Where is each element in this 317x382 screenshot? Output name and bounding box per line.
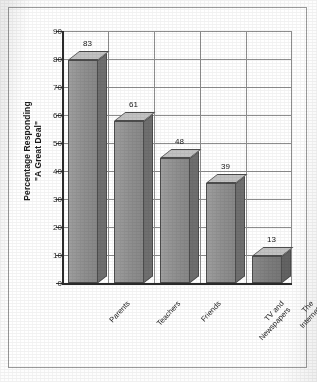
bar-friends [160, 158, 190, 283]
bar-front-face [68, 60, 98, 283]
y-axis-line [62, 31, 64, 283]
y-tick-label-40: 40 [36, 167, 62, 176]
value-label-parents: 83 [83, 39, 92, 48]
gridline-vertical-4 [246, 31, 247, 283]
bar-the-internet [252, 256, 282, 283]
y-tick-label-20: 20 [36, 223, 62, 232]
value-label-teachers: 61 [129, 100, 138, 109]
y-tick-label-30: 30 [36, 195, 62, 204]
bar-teachers [114, 121, 144, 283]
y-tick-label-0: 0 [36, 279, 62, 288]
gridline-90 [62, 31, 292, 32]
bar-chart: Percentage Responding "A Great Deal" [0, 0, 317, 382]
y-tick-label-60: 60 [36, 111, 62, 120]
category-label-line-1: Teachers [155, 299, 183, 328]
category-label-line-1: Friends [199, 299, 223, 324]
bar-side-face [236, 176, 245, 283]
bar-front-face [114, 121, 144, 283]
value-label-tv-and-newspapers: 39 [221, 162, 230, 171]
bar-front-face [160, 158, 190, 283]
category-label-tv-and-newspapers: TV andNewspapers [250, 299, 292, 342]
bar-parents [68, 60, 98, 283]
bar-side-face [190, 151, 199, 283]
gridline-vertical-3 [200, 31, 201, 283]
bar-tv-and-newspapers [206, 183, 236, 283]
bar-front-face [206, 183, 236, 283]
category-label-teachers: Teachers [155, 299, 183, 328]
bar-side-face [98, 53, 107, 283]
y-tick-label-50: 50 [36, 139, 62, 148]
bar-side-face [144, 114, 153, 283]
gridline-vertical-1 [108, 31, 109, 283]
bar-front-face [252, 256, 282, 283]
value-label-friends: 48 [175, 137, 184, 146]
category-label-line-1: Parents [107, 299, 131, 324]
y-tick-label-80: 80 [36, 55, 62, 64]
value-label-the-internet: 13 [267, 235, 276, 244]
y-tick-label-90: 90 [36, 27, 62, 36]
scanned-page: Percentage Responding "A Great Deal" [0, 0, 317, 382]
x-axis-line [62, 283, 292, 285]
gridline-vertical-2 [154, 31, 155, 283]
y-tick-label-10: 10 [36, 251, 62, 260]
y-tick-label-70: 70 [36, 83, 62, 92]
category-label-parents: Parents [107, 299, 131, 324]
category-label-the-internet: TheInternet [291, 299, 317, 330]
y-axis-title-line-1: Percentage Responding [22, 56, 33, 246]
gridline-vertical-5 [291, 31, 292, 283]
category-label-friends: Friends [199, 299, 223, 324]
